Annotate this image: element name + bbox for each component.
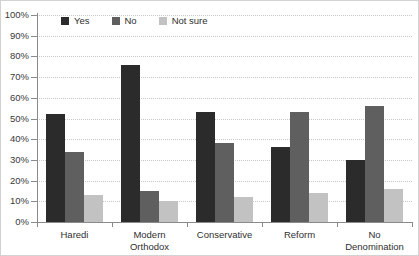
bar xyxy=(290,112,309,222)
y-tick-label: 30% xyxy=(1,155,29,165)
bar xyxy=(196,112,215,222)
x-axis-line xyxy=(31,222,412,223)
bar xyxy=(309,193,328,222)
y-tick-mark xyxy=(31,119,37,120)
bar xyxy=(46,114,65,222)
bar xyxy=(84,195,103,222)
legend-item[interactable]: Yes xyxy=(61,16,90,26)
y-tick-label: 40% xyxy=(1,134,29,144)
y-tick-label: 50% xyxy=(1,114,29,124)
bar xyxy=(121,65,140,222)
y-tick-mark xyxy=(31,139,37,140)
y-tick-label: 0% xyxy=(1,217,29,227)
bar-group xyxy=(337,15,412,222)
legend-label: Yes xyxy=(74,16,90,26)
legend-swatch-icon xyxy=(112,17,120,25)
bar-group xyxy=(112,15,187,222)
bar xyxy=(140,191,159,222)
y-tick-mark xyxy=(31,15,37,16)
y-tick-label: 10% xyxy=(1,197,29,207)
bar xyxy=(365,106,384,222)
y-tick-mark xyxy=(31,201,37,202)
y-axis-labels: 0%10%20%30%40%50%60%70%80%90%100% xyxy=(1,1,29,256)
x-tick-mark xyxy=(112,222,113,227)
legend-label: No xyxy=(125,16,137,26)
x-tick-label: No Denomination xyxy=(337,229,412,252)
x-tick-label: Modern Orthodox xyxy=(112,229,187,252)
bar-group xyxy=(187,15,262,222)
y-tick-label: 20% xyxy=(1,176,29,186)
x-tick-label: Conservative xyxy=(187,229,262,241)
x-tick-mark xyxy=(412,222,413,227)
bar-group xyxy=(262,15,337,222)
bar xyxy=(384,189,403,222)
x-tick-mark xyxy=(37,222,38,227)
x-tick-mark xyxy=(337,222,338,227)
y-tick-mark xyxy=(31,181,37,182)
plot-area xyxy=(37,15,412,222)
y-tick-mark xyxy=(31,160,37,161)
y-tick-label: 70% xyxy=(1,72,29,82)
y-tick-mark xyxy=(31,36,37,37)
legend-item[interactable]: Not sure xyxy=(159,16,208,26)
legend-swatch-icon xyxy=(61,17,69,25)
x-tick-label: Reform xyxy=(262,229,337,241)
x-tick-label: Haredi xyxy=(37,229,112,241)
bar xyxy=(65,152,84,222)
grouped-bar-chart: 0%10%20%30%40%50%60%70%80%90%100% Haredi… xyxy=(0,0,419,256)
legend-swatch-icon xyxy=(159,17,167,25)
y-tick-label: 100% xyxy=(1,10,29,20)
x-tick-mark xyxy=(262,222,263,227)
bar xyxy=(271,147,290,222)
y-axis-line xyxy=(37,13,38,224)
y-tick-mark xyxy=(31,98,37,99)
x-tick-mark xyxy=(187,222,188,227)
chart-legend: YesNoNot sure xyxy=(61,16,230,26)
bar xyxy=(215,143,234,222)
bar xyxy=(159,201,178,222)
bar xyxy=(234,197,253,222)
y-tick-mark xyxy=(31,77,37,78)
bar xyxy=(346,160,365,222)
legend-label: Not sure xyxy=(172,16,208,26)
y-tick-mark xyxy=(31,56,37,57)
y-tick-label: 80% xyxy=(1,52,29,62)
bar-group xyxy=(37,15,112,222)
legend-item[interactable]: No xyxy=(112,16,137,26)
y-tick-label: 60% xyxy=(1,93,29,103)
y-tick-label: 90% xyxy=(1,31,29,41)
